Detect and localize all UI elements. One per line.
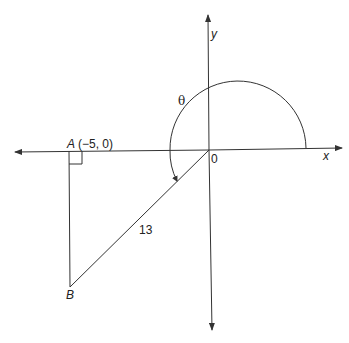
segment-AB — [69, 151, 70, 287]
hypotenuse-length-label: 13 — [139, 223, 153, 237]
segment-OB — [70, 150, 209, 287]
point-A-coords: (−5, 0) — [78, 137, 113, 151]
origin-label: 0 — [211, 152, 218, 166]
y-axis-negative — [209, 150, 212, 330]
right-angle-marker — [69, 151, 82, 164]
point-A-label: A — [66, 137, 75, 151]
x-axis-label: x — [322, 149, 330, 163]
point-B-label: B — [66, 288, 74, 302]
angle-arc — [170, 81, 306, 181]
y-axis-label: y — [210, 27, 218, 41]
coordinate-diagram: A (−5, 0) B 0 x y 13 θ — [0, 0, 349, 343]
angle-theta-label: θ — [178, 94, 185, 108]
y-axis — [208, 15, 209, 150]
